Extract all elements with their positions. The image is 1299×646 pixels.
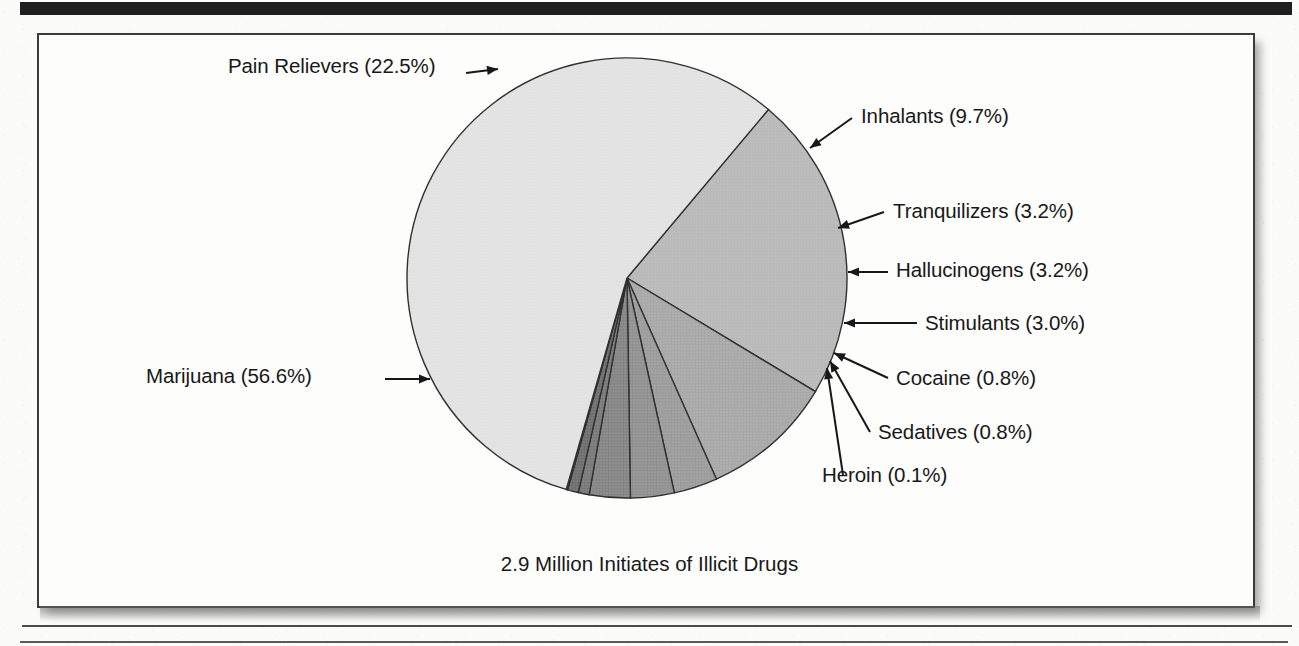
slice-label-pain-relievers: Pain Relievers (22.5%) [228,54,435,78]
slice-label-stimulants: Stimulants (3.0%) [925,311,1085,335]
chart-caption: 2.9 Million Initiates of Illicit Drugs [0,552,1299,576]
frame-shadow [40,606,1260,622]
slice-label-cocaine: Cocaine (0.8%) [896,366,1036,390]
page-bottom-rule-upper [22,625,1292,627]
page-top-rule [20,2,1292,15]
slice-label-heroin: Heroin (0.1%) [822,463,947,487]
slice-label-tranquilizers: Tranquilizers (3.2%) [893,199,1074,223]
slice-label-hallucinogens: Hallucinogens (3.2%) [896,258,1089,282]
page-bottom-rule-lower [20,641,1288,643]
slice-label-inhalants: Inhalants (9.7%) [861,104,1009,128]
slice-label-marijuana: Marijuana (56.6%) [146,364,312,388]
slice-label-sedatives: Sedatives (0.8%) [878,420,1033,444]
